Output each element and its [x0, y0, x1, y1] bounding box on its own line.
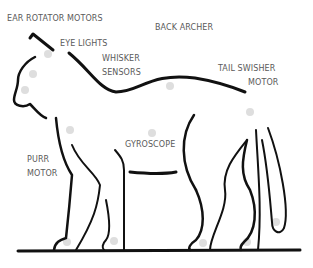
label-whisker: WHISKER	[102, 52, 140, 66]
cat-outline-drawing	[0, 0, 313, 268]
label-sensors: SENSORS	[102, 66, 141, 80]
label-tail-swisher: TAIL SWISHER	[218, 62, 275, 76]
back-marker	[166, 82, 174, 90]
tail-marker	[246, 108, 254, 116]
label-gyroscope: GYROSCOPE	[125, 138, 175, 152]
purr-marker	[66, 126, 74, 134]
eye-marker	[29, 70, 37, 78]
label-purr: PURR	[27, 153, 49, 167]
label-back-archer: BACK ARCHER	[155, 21, 213, 35]
ear-marker	[44, 50, 52, 58]
cat-robot-diagram: EAR ROTATOR MOTORS BACK ARCHER EYE LIGHT…	[0, 0, 313, 268]
label-eye-lights: EYE LIGHTS	[60, 37, 108, 51]
whisker-marker	[21, 86, 29, 94]
label-purr-motor: MOTOR	[27, 167, 57, 181]
label-ear-rotator-motors: EAR ROTATOR MOTORS	[7, 12, 103, 26]
label-tail-motor: MOTOR	[248, 76, 278, 90]
gyroscope-marker	[148, 129, 156, 137]
